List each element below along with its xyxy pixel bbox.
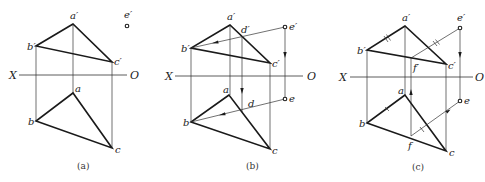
parallel-tick	[436, 40, 440, 45]
panel-c: X O a′ b′ c′ e′ f′ a b c e f (c)	[338, 12, 484, 172]
axis-label-o: O	[130, 69, 139, 82]
label-b-prime: b′	[27, 41, 36, 52]
axis-label-o: O	[307, 70, 316, 83]
label-a: a	[223, 84, 229, 95]
triangle-top-view	[191, 95, 270, 149]
label-b: b	[183, 117, 189, 128]
parallel-tick	[433, 41, 437, 46]
arrow-down-e	[283, 52, 286, 58]
label-e-prime: e′	[289, 21, 298, 32]
axis-label-x: X	[8, 69, 18, 82]
label-c: c	[449, 147, 455, 158]
label-a: a	[75, 83, 81, 94]
arrow-down-e	[458, 52, 461, 58]
label-c: c	[115, 144, 121, 155]
label-a: a	[398, 85, 404, 96]
label-b-prime: b′	[357, 45, 366, 56]
caption-b: (b)	[246, 161, 259, 171]
point-e	[458, 99, 462, 103]
label-b-prime: b′	[181, 43, 190, 54]
panel-b: X O a′ b′ c′ d′ e′ a b c d e (b)	[164, 11, 316, 171]
point-e-prime	[458, 26, 462, 30]
point-e	[283, 97, 287, 101]
label-f: f	[407, 140, 414, 151]
label-c-prime: c′	[272, 58, 281, 69]
point-e-prime	[283, 25, 287, 29]
arrow-left-top	[219, 112, 226, 115]
caption-c: (c)	[412, 162, 424, 172]
axis-label-o: O	[475, 71, 484, 84]
triangle-top-view	[367, 95, 446, 151]
label-e: e	[464, 95, 470, 106]
caption-a: (a)	[77, 161, 89, 171]
triangle-front-view	[367, 26, 446, 64]
label-c-prime: c′	[114, 56, 123, 67]
label-d: d	[248, 98, 254, 109]
axis-label-x: X	[338, 71, 348, 84]
label-a-prime: a′	[402, 12, 411, 23]
triangle-top-view	[36, 93, 112, 148]
arrow-up-f	[409, 89, 412, 95]
arrow-down-d	[240, 88, 243, 94]
point-e-prime	[125, 24, 129, 28]
label-a-prime: a′	[70, 10, 79, 21]
label-e-prime: e′	[124, 9, 133, 20]
label-b: b	[359, 118, 365, 129]
label-f-prime: f′	[412, 62, 420, 73]
label-b: b	[28, 116, 34, 127]
arrow-left-front	[212, 40, 219, 43]
aux-line-e-prime-b-prime	[191, 27, 285, 48]
label-e-prime: e′	[457, 12, 466, 23]
axis-label-x: X	[164, 70, 174, 83]
aux-line-e-b	[191, 99, 285, 122]
projection-diagram: X O a′ b′ c′ e′ a b c (a) X O	[0, 0, 485, 182]
label-c: c	[272, 145, 278, 156]
panel-a: X O a′ b′ c′ e′ a b c (a)	[8, 9, 139, 171]
label-a-prime: a′	[227, 11, 236, 22]
label-d-prime: d′	[241, 24, 250, 35]
triangle-front-view	[36, 24, 112, 62]
aux-line-f-e	[411, 101, 460, 136]
triangle-front-view	[191, 25, 270, 63]
label-e: e	[289, 93, 295, 104]
label-c-prime: c′	[448, 60, 457, 71]
